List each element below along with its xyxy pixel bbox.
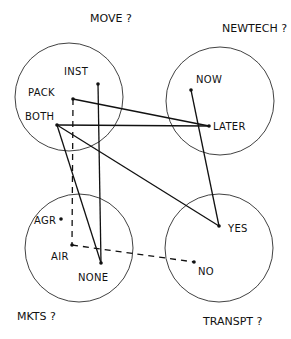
group-circles <box>15 43 274 302</box>
edge-both-none <box>57 125 101 263</box>
group-circle-transpt <box>165 194 273 302</box>
node-dot-yes <box>217 224 221 228</box>
group-title-transpt: TRANSPT ? <box>202 315 263 328</box>
node-label-air: AIR <box>51 251 69 262</box>
edge-both-yes <box>57 125 219 226</box>
edge-both-later <box>57 125 209 126</box>
network-diagram: INSTPACKBOTHNOWLATERAGRAIRNONEYESNO MOVE… <box>0 0 291 339</box>
edge-inst-none <box>98 84 101 263</box>
node-label-now: NOW <box>196 74 222 85</box>
group-title-move: MOVE ? <box>90 12 132 25</box>
node-label-yes: YES <box>227 223 248 234</box>
group-titles: MOVE ?NEWTECH ?MKTS ?TRANSPT ? <box>17 12 287 328</box>
group-circle-mkts <box>25 194 133 302</box>
edge-pack-later <box>73 99 209 126</box>
node-label-pack: PACK <box>28 87 55 98</box>
node-label-both: BOTH <box>25 111 54 122</box>
node-dot-inst <box>96 82 100 86</box>
edge-now-yes <box>191 90 219 226</box>
node-label-no: NO <box>198 266 214 277</box>
node-dot-air <box>70 243 74 247</box>
node-dot-none <box>99 261 103 265</box>
node-dot-pack <box>71 97 75 101</box>
node-label-later: LATER <box>213 121 246 132</box>
node-dot-both <box>55 123 59 127</box>
node-dot-agr <box>59 217 63 221</box>
node-label-none: NONE <box>78 272 108 283</box>
node-label-inst: INST <box>64 66 89 77</box>
group-title-mkts: MKTS ? <box>17 310 56 323</box>
group-circle-newtech <box>166 47 274 155</box>
node-dot-no <box>192 260 196 264</box>
node-dot-later <box>207 124 211 128</box>
group-title-newtech: NEWTECH ? <box>222 22 287 35</box>
edges <box>57 84 219 263</box>
node-label-agr: AGR <box>34 215 56 226</box>
node-dot-now <box>189 88 193 92</box>
